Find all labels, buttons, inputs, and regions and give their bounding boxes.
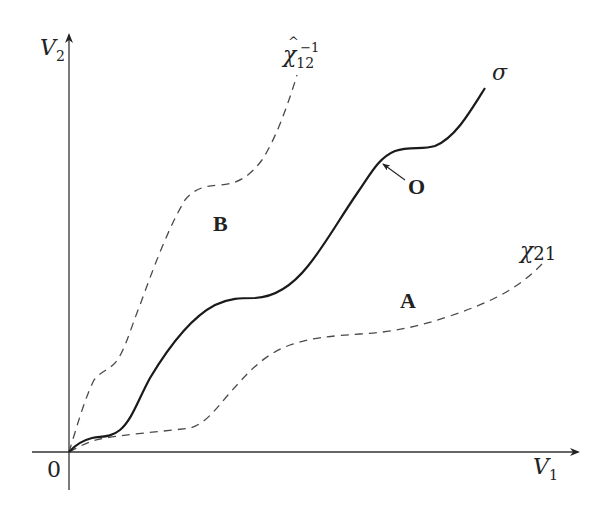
chi12-hat-inverse-curve	[69, 75, 297, 452]
chi12-label-sub: 12	[296, 55, 314, 71]
chi12-label-sup: −1	[300, 40, 319, 55]
y-axis-label-sub: 2	[56, 48, 65, 64]
sigma-label: σ	[492, 62, 507, 84]
diagram-canvas: V2 V1 0 ^χ12−1 σ χ21 B A O	[0, 0, 589, 512]
y-axis-label: V2	[40, 37, 65, 59]
chi21-label-sub: 21	[533, 243, 556, 264]
region-b-label: B	[213, 213, 228, 235]
point-o-pointer-arrow	[383, 164, 405, 180]
x-axis-label-main: V	[533, 454, 549, 479]
chi21-label-main: χ	[520, 238, 533, 263]
hat-accent: ^	[288, 35, 299, 48]
point-o-label: O	[408, 176, 425, 198]
chi21-curve	[69, 264, 542, 452]
chi21-label: χ21	[520, 240, 556, 262]
x-axis-label-sub: 1	[549, 467, 558, 483]
x-axis-label: V1	[533, 456, 558, 478]
chi12-hat-inverse-label: ^χ12−1	[283, 44, 319, 66]
region-a-label: A	[400, 290, 416, 312]
origin-label: 0	[47, 459, 61, 481]
y-axis-label-main: V	[40, 35, 56, 60]
sigma-curve	[69, 88, 485, 452]
